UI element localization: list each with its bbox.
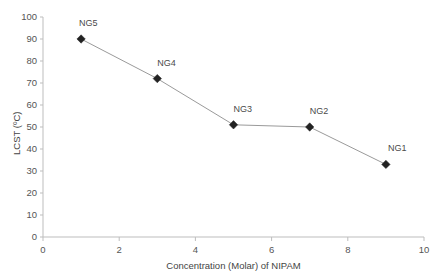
point-label: NG2 xyxy=(310,107,329,116)
y-axis-title: LCST (ºC) xyxy=(12,112,22,155)
y-tick-label: 80 xyxy=(26,56,37,66)
y-tick-label: 40 xyxy=(26,144,37,154)
data-point-marker xyxy=(306,123,314,131)
x-axis-title: Concentration (Molar) of NIPAM xyxy=(43,261,424,271)
point-label: NG5 xyxy=(79,19,98,28)
y-tick-label: 60 xyxy=(26,100,37,110)
point-label: NG3 xyxy=(234,105,253,114)
x-tick-label: 0 xyxy=(23,245,63,255)
y-tick-label: 10 xyxy=(26,210,37,220)
point-label: NG4 xyxy=(157,59,176,68)
y-tick-label: 0 xyxy=(32,232,37,242)
x-tick-label: 2 xyxy=(99,245,139,255)
x-tick-label: 4 xyxy=(175,245,215,255)
x-tick-label: 8 xyxy=(328,245,368,255)
data-point-marker xyxy=(153,74,161,82)
data-point-marker xyxy=(77,35,85,43)
y-tick-label: 20 xyxy=(26,188,37,198)
y-tick-label: 70 xyxy=(26,78,37,88)
x-tick-label: 6 xyxy=(252,245,292,255)
y-tick-label: 30 xyxy=(26,166,37,176)
data-point-marker xyxy=(229,121,237,129)
y-tick-label: 90 xyxy=(26,34,37,44)
data-point-marker xyxy=(382,160,390,168)
point-label: NG1 xyxy=(388,144,407,153)
y-tick-label: 100 xyxy=(21,12,37,22)
plot-area xyxy=(0,0,441,277)
y-tick-label: 50 xyxy=(26,122,37,132)
x-tick-label: 10 xyxy=(404,245,441,255)
lcst-concentration-chart: 0102030405060708090100 0246810 NG5NG4NG3… xyxy=(0,0,441,277)
data-series-line xyxy=(81,39,386,164)
